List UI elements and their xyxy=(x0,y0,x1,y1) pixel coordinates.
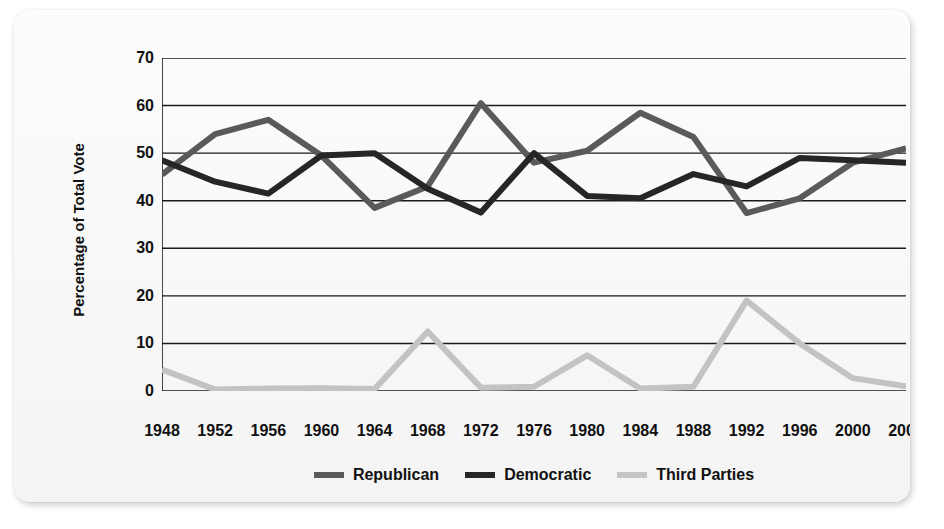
x-axis-tick-label: 1972 xyxy=(463,422,499,440)
y-axis-tick-label: 50 xyxy=(114,144,154,162)
x-axis-tick-label: 1976 xyxy=(516,422,552,440)
x-axis-tick-label: 1984 xyxy=(622,422,658,440)
legend-label: Democratic xyxy=(504,466,591,484)
legend-swatch-icon xyxy=(465,472,495,478)
legend-swatch-icon xyxy=(617,472,647,478)
x-axis-tick-label: 2000 xyxy=(835,422,871,440)
x-axis-tick-label: 1956 xyxy=(250,422,286,440)
y-axis-tick-label: 20 xyxy=(114,287,154,305)
legend-swatch-icon xyxy=(314,472,344,478)
y-axis-tick-label: 60 xyxy=(114,97,154,115)
chart-screenshot: Percentage of Total Vote 010203040506070… xyxy=(0,0,944,529)
chart-card: Percentage of Total Vote 010203040506070… xyxy=(14,10,910,502)
x-axis-tick-label: 1988 xyxy=(676,422,712,440)
x-axis-tick-label: 1968 xyxy=(410,422,446,440)
y-axis-label-text: Percentage of Total Vote xyxy=(70,143,87,317)
x-axis-tick-label: 1980 xyxy=(569,422,605,440)
legend-label: Third Parties xyxy=(656,466,754,484)
x-axis-tick-label: 1960 xyxy=(304,422,340,440)
y-axis-tick-labels: 010203040506070 xyxy=(110,58,154,391)
line-chart-svg xyxy=(162,58,906,391)
legend-item-republican[interactable]: Republican xyxy=(314,466,439,484)
x-axis-tick-label: 1948 xyxy=(144,422,180,440)
chart-card-surface: Percentage of Total Vote 010203040506070… xyxy=(14,10,910,502)
legend-label: Republican xyxy=(353,466,439,484)
x-axis-tick-label: 1992 xyxy=(729,422,765,440)
x-axis-tick-label: 2004 xyxy=(888,422,910,440)
y-axis-label: Percentage of Total Vote xyxy=(66,80,90,380)
legend-item-third-parties[interactable]: Third Parties xyxy=(617,466,754,484)
y-axis-tick-label: 70 xyxy=(114,49,154,67)
x-axis-tick-labels: 1948195219561960196419681972197619801984… xyxy=(162,422,906,444)
y-axis-tick-label: 30 xyxy=(114,239,154,257)
y-axis-tick-label: 10 xyxy=(114,334,154,352)
x-axis-tick-label: 1952 xyxy=(197,422,233,440)
x-axis-tick-label: 1964 xyxy=(357,422,393,440)
legend-item-democratic[interactable]: Democratic xyxy=(465,466,591,484)
series-line-third-parties xyxy=(162,301,906,390)
y-axis-tick-label: 40 xyxy=(114,192,154,210)
y-axis-tick-label: 0 xyxy=(114,382,154,400)
plot-area xyxy=(162,58,906,391)
chart-legend: RepublicanDemocraticThird Parties xyxy=(162,462,906,488)
x-axis-tick-label: 1996 xyxy=(782,422,818,440)
